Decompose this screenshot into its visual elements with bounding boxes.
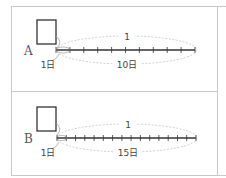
top-label: 1 <box>125 120 131 130</box>
unit-label: 1日 <box>41 60 56 70</box>
bottom-label: 15日 <box>118 148 138 158</box>
bottom-label: 10日 <box>117 60 137 70</box>
right-column <box>218 6 226 176</box>
whole-box-icon <box>37 107 56 131</box>
whole-box-icon <box>37 20 56 44</box>
panel-letter: A <box>23 44 33 58</box>
panel-letter: B <box>24 132 33 146</box>
unit-label: 1日 <box>41 148 56 158</box>
top-label: 1 <box>124 32 130 42</box>
panel-a: A 1 10日 1日 <box>11 6 218 91</box>
panel-b: B 1 15日 1日 <box>11 92 218 177</box>
